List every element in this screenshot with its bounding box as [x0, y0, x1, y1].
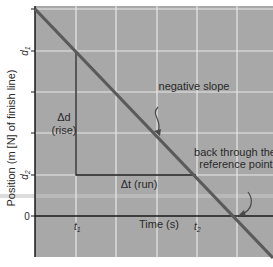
x-axis-title: Time (s) [139, 218, 179, 230]
run-label: Δt (run) [121, 178, 158, 190]
back-through-label-1: back through the [194, 146, 273, 158]
rise-label-word: (rise) [51, 124, 76, 136]
y-tick-d1: d1 [19, 46, 31, 56]
y-tick-d2: d2 [19, 170, 31, 180]
rise-label-delta: Δd [57, 111, 70, 123]
negative-slope-label: negative slope [159, 80, 230, 92]
y-tick-zero: 0 [24, 211, 30, 222]
back-through-label-2: reference point [199, 158, 272, 170]
position-time-chart: Position (m [N] of finish line) d1 d2 0 … [0, 0, 273, 267]
scan-band [0, 194, 273, 198]
y-axis-title: Position (m [N] of finish line) [5, 70, 17, 207]
